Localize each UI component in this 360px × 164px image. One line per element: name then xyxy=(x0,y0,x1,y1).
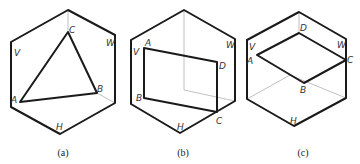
point-label-c: C xyxy=(347,55,354,65)
plane-label-h: H xyxy=(56,122,63,132)
plane-label-v: V xyxy=(14,48,21,58)
point-label-d: D xyxy=(300,23,307,33)
plane-label-v: V xyxy=(133,47,140,57)
point-label-a: A xyxy=(246,56,253,66)
caption-c: (c) xyxy=(297,147,308,159)
figure-b: V W H A B C D (b) xyxy=(131,10,236,159)
axis-line xyxy=(97,93,115,103)
point-label-d: D xyxy=(219,61,226,71)
point-label-a: A xyxy=(10,95,17,105)
figure-a: V W H A B C (a) xyxy=(10,10,116,159)
quad-abcd xyxy=(257,33,346,83)
point-label-b: B xyxy=(97,84,103,94)
plane-label-w: W xyxy=(337,40,347,50)
plane-label-v: V xyxy=(249,42,256,52)
figure-c: V W H A B C D (c) xyxy=(246,12,354,159)
hexagon-outline xyxy=(131,10,235,133)
point-label-b: B xyxy=(136,93,142,103)
plane-label-w: W xyxy=(106,38,116,48)
plane-label-h: H xyxy=(290,116,297,126)
caption-b: (b) xyxy=(177,147,189,159)
point-label-a: A xyxy=(144,38,151,48)
plane-label-h: H xyxy=(177,122,184,132)
axis-line xyxy=(184,90,235,101)
point-label-b: B xyxy=(300,85,306,95)
plane-label-w: W xyxy=(226,40,236,50)
quad-abcd xyxy=(144,48,217,112)
projection-diagrams: V W H A B C (a) V W H A B C D (b) V W H … xyxy=(0,0,360,164)
point-label-c: C xyxy=(69,25,76,35)
caption-a: (a) xyxy=(57,147,68,159)
triangle-abc xyxy=(20,32,97,102)
axis-line xyxy=(247,75,290,99)
axis-line xyxy=(290,75,346,98)
point-label-c: C xyxy=(216,116,223,126)
hexagon-outline xyxy=(11,10,115,134)
